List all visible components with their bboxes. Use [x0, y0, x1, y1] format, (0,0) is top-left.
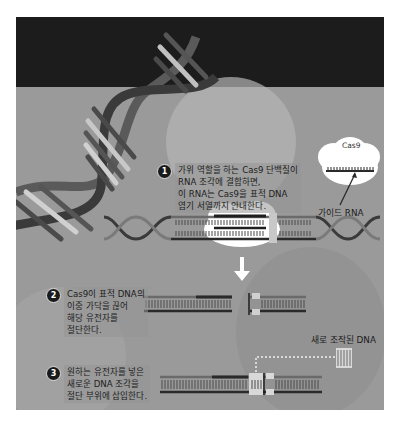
- step-text-line: RNA 조각에 결합하면,: [178, 176, 298, 188]
- step-number-badge: 2: [46, 288, 61, 303]
- step-text-line: 가위 역할을 하는 Cas9 단백질이: [178, 164, 298, 176]
- new-dna-label: 새로 조작된 DNA: [311, 333, 376, 346]
- guide-rna-label: 가이드 RNA: [318, 206, 364, 219]
- step-text-line: Cas9이 표적 DNA의: [67, 288, 145, 300]
- crispr-diagram-panel: Cas9 가이드 RNA 1 가위 역할을 하는 Cas9 단백질이 RNA 조…: [16, 17, 384, 410]
- step-3-text: 원하는 유전자를 넣은 새로운 DNA 조각을 절단 부위에 삽입한다.: [64, 365, 150, 403]
- step-text-line: 절단 부위에 삽입한다.: [67, 390, 147, 402]
- edited-dna-strand: [160, 373, 322, 395]
- step-number-badge: 3: [46, 366, 61, 381]
- step-text-line: 이 RNA는 Cas9을 표적 DNA: [178, 188, 298, 200]
- step-text-line: 해당 유전자를: [67, 312, 145, 324]
- cut-dna-strand: [144, 293, 306, 315]
- step-number-badge: 1: [157, 164, 172, 179]
- step-3: 3 원하는 유전자를 넣은 새로운 DNA 조각을 절단 부위에 삽입한다.: [46, 365, 150, 403]
- step-text-line: 이중 가닥을 끊어: [67, 300, 145, 312]
- step-text-line: 새로운 DNA 조각을: [67, 378, 147, 390]
- step-1-text: 가위 역할을 하는 Cas9 단백질이 RNA 조각에 결합하면, 이 RNA는…: [175, 163, 301, 213]
- cas9-label: Cas9: [342, 141, 361, 150]
- down-arrow-icon: [234, 257, 250, 281]
- step-2-text: Cas9이 표적 DNA의 이중 가닥을 끊어 해당 유전자를 절단한다.: [64, 287, 148, 337]
- step-1: 1 가위 역할을 하는 Cas9 단백질이 RNA 조각에 결합하면, 이 RN…: [157, 163, 301, 213]
- step-text-line: 원하는 유전자를 넣은: [67, 366, 147, 378]
- new-dna-fragment: [256, 348, 352, 372]
- step-2: 2 Cas9이 표적 DNA의 이중 가닥을 끊어 해당 유전자를 절단한다.: [46, 287, 148, 337]
- step-text-line: 염기 서열까지 안내한다.: [178, 200, 298, 212]
- step-text-line: 절단한다.: [67, 324, 145, 336]
